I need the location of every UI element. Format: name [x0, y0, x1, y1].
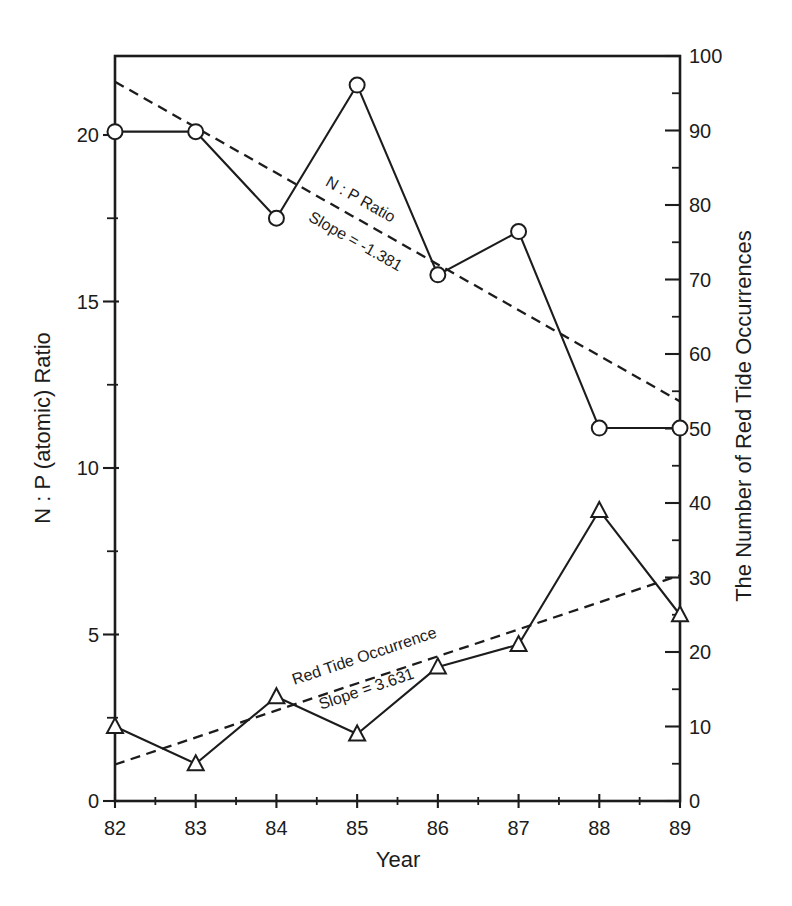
- x-axis-tick-label: 83: [185, 817, 207, 839]
- right-axis-tick-label: 10: [689, 716, 711, 738]
- np-ratio-circle-marker: [108, 124, 123, 139]
- np-ratio-circle-marker: [511, 224, 526, 239]
- x-axis-tick-label: 88: [588, 817, 610, 839]
- red-tide-triangle-marker: [188, 755, 204, 770]
- np-ratio-circle-marker: [350, 78, 365, 93]
- right-axis-title: The Number of Red Tide Occurrences: [731, 230, 756, 602]
- red-tide-triangle-marker: [107, 718, 123, 733]
- x-axis-tick-label: 86: [427, 817, 449, 839]
- red-tide-triangle-marker: [511, 636, 527, 651]
- chart-svg: 0510152001020304050607080901008283848586…: [0, 0, 792, 906]
- right-axis-tick-label: 20: [689, 641, 711, 663]
- red-tide-triangle-marker: [349, 725, 365, 740]
- x-axis-tick-label: 84: [265, 817, 287, 839]
- right-axis-tick-label: 50: [689, 418, 711, 440]
- np-ratio-circle-marker: [188, 124, 203, 139]
- np-ratio-circle-marker: [430, 267, 445, 282]
- np-ratio-circle-marker: [269, 211, 284, 226]
- left-axis-tick-label: 5: [88, 624, 99, 646]
- right-axis-tick-label: 30: [689, 567, 711, 589]
- np-ratio-trend-label: N : P Ratio: [323, 173, 399, 226]
- right-axis-tick-label: 60: [689, 343, 711, 365]
- chart-plot-layer: 0510152001020304050607080901008283848586…: [77, 45, 723, 839]
- red-tide-triangle-marker: [268, 688, 284, 703]
- figure-page: 0510152001020304050607080901008283848586…: [0, 0, 792, 906]
- x-axis-tick-label: 87: [507, 817, 529, 839]
- right-axis-tick-label: 90: [689, 120, 711, 142]
- left-axis-tick-label: 20: [77, 124, 99, 146]
- x-axis-title: Year: [376, 847, 420, 872]
- left-axis-tick-label: 15: [77, 291, 99, 313]
- x-axis-tick-label: 89: [669, 817, 691, 839]
- left-axis-tick-label: 0: [88, 790, 99, 812]
- red-tide-trend-label: Red Tide Occurrence: [290, 624, 439, 688]
- right-axis-tick-label: 100: [689, 45, 722, 67]
- right-axis-tick-label: 0: [689, 790, 700, 812]
- right-axis-tick-label: 40: [689, 492, 711, 514]
- np-ratio-circle-marker: [673, 421, 688, 436]
- right-axis-tick-label: 70: [689, 269, 711, 291]
- np-ratio-circle-marker: [592, 421, 607, 436]
- left-axis-tick-label: 10: [77, 457, 99, 479]
- left-axis-title: N : P (atomic) Ratio: [30, 332, 55, 524]
- x-axis-tick-label: 85: [346, 817, 368, 839]
- x-axis-tick-label: 82: [104, 817, 126, 839]
- red-tide-triangle-marker: [591, 502, 607, 517]
- right-axis-tick-label: 80: [689, 194, 711, 216]
